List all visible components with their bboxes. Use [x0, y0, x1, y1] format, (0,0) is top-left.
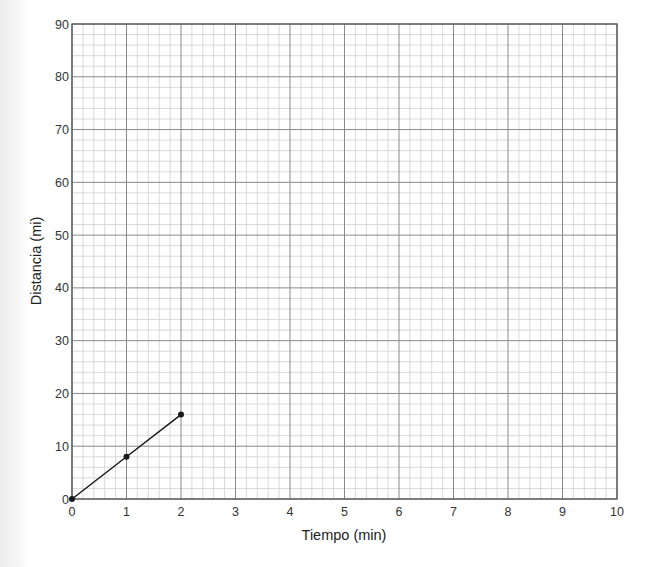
y-tick-label: 60	[55, 176, 69, 190]
x-tick-labels: 012345678910	[69, 505, 624, 519]
x-tick-label: 10	[610, 505, 624, 519]
x-tick-label: 5	[341, 505, 348, 519]
y-tick-labels: 0102030405060708090	[55, 18, 69, 507]
y-axis-label: Distancia (mi)	[28, 217, 44, 306]
x-tick-label: 6	[396, 505, 403, 519]
line-chart: 012345678910 0102030405060708090 Tiempo …	[0, 0, 650, 567]
major-grid	[72, 24, 617, 499]
x-tick-label: 9	[559, 505, 566, 519]
y-tick-label: 80	[55, 70, 69, 84]
x-tick-label: 8	[505, 505, 512, 519]
x-axis-label: Tiempo (min)	[302, 527, 387, 543]
y-tick-label: 20	[55, 387, 69, 401]
y-tick-label: 70	[55, 123, 69, 137]
x-tick-label: 2	[178, 505, 185, 519]
x-tick-label: 4	[287, 505, 294, 519]
data-point-marker	[69, 496, 75, 502]
x-tick-label: 1	[123, 505, 130, 519]
x-tick-label: 3	[232, 505, 239, 519]
y-tick-label: 50	[55, 229, 69, 243]
data-point-marker	[124, 454, 130, 460]
y-tick-label: 10	[55, 440, 69, 454]
data-point-marker	[178, 412, 184, 418]
y-tick-label: 0	[62, 493, 69, 507]
y-tick-label: 40	[55, 281, 69, 295]
y-tick-label: 30	[55, 334, 69, 348]
x-tick-label: 7	[450, 505, 457, 519]
y-tick-label: 90	[55, 18, 69, 32]
x-tick-label: 0	[69, 505, 76, 519]
